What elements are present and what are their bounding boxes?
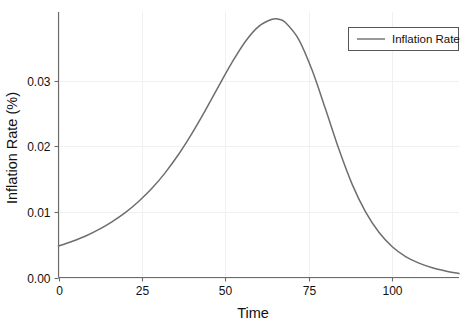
line-chart: 0.000.010.020.03 0255075100 Time Inflati… [0, 0, 468, 324]
x-tick-label-1: 25 [136, 284, 150, 298]
x-axis-title: Time [237, 305, 269, 321]
y-tick-label-1: 0.01 [27, 206, 51, 220]
x-tick-label-0: 0 [56, 284, 63, 298]
y-tick-label-2: 0.02 [27, 140, 51, 154]
x-tick-label-3: 75 [303, 284, 317, 298]
chart-figure: 0.000.010.020.03 0255075100 Time Inflati… [0, 0, 468, 324]
x-tick-label-4: 100 [382, 284, 402, 298]
x-tick-label-2: 50 [219, 284, 233, 298]
y-tick-label-3: 0.03 [27, 75, 51, 89]
y-tick-label-0: 0.00 [27, 272, 51, 286]
chart-legend[interactable]: Inflation Rate [349, 28, 460, 51]
y-axis-title: Inflation Rate (%) [4, 92, 20, 204]
legend-label-inflation-rate: Inflation Rate [392, 33, 460, 45]
